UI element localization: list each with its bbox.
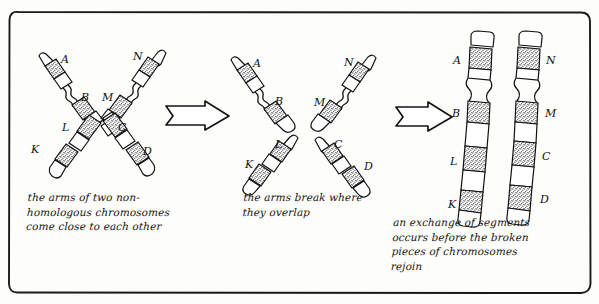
label-C: C: [118, 121, 127, 134]
label-K: K: [244, 158, 254, 171]
caption-panel-3: an exchange of segments occurs before th…: [390, 215, 578, 273]
label-N: N: [545, 54, 556, 67]
label-L: L: [449, 155, 457, 168]
label-B: B: [274, 95, 283, 108]
recombinant-chromosome-N-M-C-D: N M C D: [507, 31, 557, 225]
label-M: M: [313, 96, 326, 109]
label-C: C: [542, 150, 551, 163]
panel-2-chromosomes: A B N M L K: [231, 55, 376, 197]
label-A: A: [60, 53, 69, 66]
label-L: L: [61, 121, 69, 134]
panel-3-chromosomes: A B L K N M C D: [447, 31, 557, 227]
recombinant-chromosome-A-B-L-K: A B L K: [447, 31, 494, 227]
label-N: N: [343, 56, 354, 69]
label-A: A: [452, 54, 461, 67]
panel-1-chromosomes: A B M N L C K D: [30, 50, 166, 178]
fragment-A-B: A B: [231, 57, 295, 132]
label-D: D: [363, 160, 373, 173]
label-M: M: [101, 91, 114, 104]
label-A: A: [252, 57, 261, 70]
fragment-K-L: L K: [243, 135, 298, 195]
label-D: D: [142, 145, 152, 158]
chromosome-arm-K-L: [49, 115, 101, 178]
label-B: B: [451, 107, 460, 120]
chromosome-arm-A: [39, 53, 103, 128]
arrow-1: [166, 101, 229, 130]
fragment-C-D: C D: [315, 137, 373, 197]
label-M: M: [544, 107, 557, 120]
label-N: N: [132, 50, 143, 63]
label-K: K: [30, 143, 40, 156]
label-L: L: [274, 138, 282, 151]
label-C: C: [334, 138, 343, 151]
caption-panel-1: the arms of two non- homologous chromoso…: [26, 190, 203, 234]
fragment-N-M: N M: [311, 55, 376, 131]
label-B: B: [80, 91, 89, 104]
caption-panel-2: the arms break where they overlap: [242, 190, 394, 219]
arrow-2: [396, 102, 452, 131]
label-K: K: [447, 198, 457, 211]
label-D: D: [539, 193, 549, 206]
